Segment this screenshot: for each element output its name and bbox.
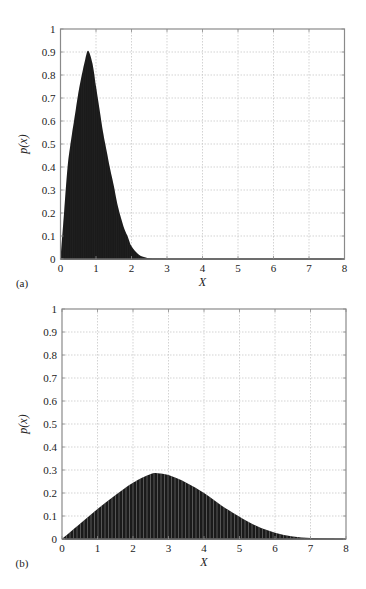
x-tick-label: 4 <box>200 262 206 274</box>
x-tick-label: 3 <box>164 262 170 274</box>
y-tick-label: 0.4 <box>42 161 56 173</box>
panel-label: (b) <box>16 557 29 570</box>
x-tick-label: 1 <box>95 542 101 554</box>
x-tick-label: 6 <box>271 262 277 274</box>
x-tick-label: 6 <box>272 542 278 554</box>
y-tick-label: 0.8 <box>43 349 57 361</box>
x-tick-label: 7 <box>308 542 314 554</box>
y-tick-label: 0.5 <box>43 418 57 430</box>
y-tick-label: 0.2 <box>42 207 56 219</box>
x-tick-label: 7 <box>306 262 312 274</box>
x-tick-label: 2 <box>130 542 136 554</box>
y-tick-label: 0.1 <box>43 510 57 522</box>
y-tick-label: 0.3 <box>43 464 57 476</box>
y-tick-label: 1 <box>52 303 58 315</box>
y-tick-label: 0.4 <box>43 441 57 453</box>
y-axis-label: p(x) <box>16 414 30 434</box>
x-tick-label: 8 <box>342 262 348 274</box>
y-tick-label: 0.1 <box>42 230 56 242</box>
y-tick-label: 0.6 <box>42 115 56 127</box>
y-tick-label: 0 <box>50 253 56 265</box>
x-tick-label: 2 <box>129 262 135 274</box>
x-tick-label: 0 <box>59 542 65 554</box>
y-tick-label: 0.7 <box>42 92 56 104</box>
x-tick-label: 8 <box>343 542 349 554</box>
y-tick-label: 0.8 <box>42 69 56 81</box>
panel-label: (a) <box>16 277 29 290</box>
x-axis-label: X <box>198 275 207 289</box>
panel-b-chart: 01234567800.10.20.30.40.50.60.70.80.91Xp… <box>16 303 350 570</box>
panel-a-chart: 01234567800.10.20.30.40.50.60.70.80.91Xp… <box>16 23 348 290</box>
y-tick-label: 0.9 <box>43 326 57 338</box>
y-tick-label: 0 <box>52 533 58 545</box>
x-tick-label: 5 <box>237 542 243 554</box>
y-tick-label: 0.3 <box>42 184 56 196</box>
x-tick-label: 3 <box>166 542 172 554</box>
y-tick-label: 1 <box>50 23 56 35</box>
density-area <box>62 473 346 539</box>
y-tick-label: 0.6 <box>43 395 57 407</box>
x-tick-label: 5 <box>235 262 241 274</box>
x-tick-label: 1 <box>93 262 99 274</box>
y-tick-label: 0.7 <box>43 372 57 384</box>
x-axis-label: X <box>199 555 208 569</box>
x-tick-label: 4 <box>201 542 207 554</box>
y-tick-label: 0.2 <box>43 487 57 499</box>
x-tick-label: 0 <box>58 262 64 274</box>
y-axis-label: p(x) <box>16 134 30 154</box>
y-tick-label: 0.9 <box>42 46 56 58</box>
figure: 01234567800.10.20.30.40.50.60.70.80.91Xp… <box>0 0 366 589</box>
y-tick-label: 0.5 <box>42 138 56 150</box>
